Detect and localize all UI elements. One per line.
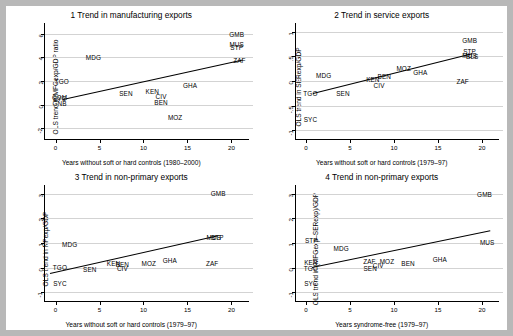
data-point-label: GHA — [163, 256, 177, 263]
x-tick-label: 15 — [434, 306, 441, 313]
x-tick-label: 5 — [348, 306, 351, 313]
data-point-label: GHA — [413, 68, 427, 75]
figure-panel-grid: 1 Trend in manufacturing exports OLS tre… — [6, 6, 507, 330]
x-tick-label: 0 — [54, 306, 57, 313]
gridline — [296, 81, 504, 82]
y-tick-label: 0 — [287, 81, 294, 84]
x-tick — [306, 139, 307, 143]
data-point-label: SEN — [83, 265, 96, 272]
data-point-label: STP — [230, 44, 243, 51]
x-tick-label: 5 — [98, 306, 101, 313]
x-tick-label: 5 — [348, 144, 351, 151]
x-tick — [231, 139, 232, 143]
x-axis-label: Years without soft or hard controls (198… — [6, 159, 257, 166]
x-tick — [187, 301, 188, 305]
gridline — [45, 34, 253, 35]
x-tick-label: 15 — [434, 144, 441, 151]
gridline — [296, 106, 504, 107]
data-point-label: SEN — [336, 90, 349, 97]
x-tick-label: 10 — [140, 306, 147, 313]
x-tick — [438, 139, 439, 143]
gridline — [45, 128, 253, 129]
gridline — [45, 105, 253, 106]
y-tick-label: 4 — [37, 57, 44, 60]
x-tick — [100, 139, 101, 143]
x-tick-label: 10 — [391, 144, 398, 151]
data-point-label: STP — [305, 237, 318, 244]
data-point-label: ZAF — [233, 57, 245, 64]
gridline — [296, 218, 504, 219]
data-point-label: TGO — [53, 264, 67, 271]
data-point-label: BLS — [466, 53, 478, 60]
y-tick-label: -.5 — [287, 106, 294, 113]
data-point-label: ZAF — [206, 259, 218, 266]
x-tick — [350, 301, 351, 305]
y-tick-label: 2 — [37, 81, 44, 84]
x-tick — [306, 301, 307, 305]
y-tick-label: 3 — [287, 194, 294, 197]
x-tick-label: 10 — [391, 306, 398, 313]
data-point-label: GMB — [477, 190, 492, 197]
data-point-label: GHA — [433, 255, 447, 262]
y-tick-label: -2 — [37, 128, 44, 134]
data-point-label: MDG — [62, 241, 77, 248]
plot-inner: -1012305101520GMBMUSSTPMDGGHAMOZZAFBENCI… — [296, 185, 500, 301]
data-point-label: GHA — [183, 82, 197, 89]
data-point-label: TGO — [55, 78, 69, 85]
x-tick-label: 20 — [478, 144, 485, 151]
data-point-label: SYC — [53, 279, 66, 286]
gridline — [296, 292, 504, 293]
gridline — [296, 194, 504, 195]
data-point-label: ZAF — [456, 78, 468, 85]
data-point-label: CIV — [117, 264, 128, 271]
data-point-label: TGO — [304, 264, 318, 271]
data-point-label: SYC — [304, 279, 317, 286]
data-point-label: BEN — [401, 259, 414, 266]
gridline — [296, 32, 504, 33]
x-tick-label: 20 — [228, 144, 235, 151]
y-tick-label: 0 — [37, 268, 44, 271]
y-tick-label: 1 — [287, 32, 294, 35]
y-tick-label: -1 — [287, 292, 294, 298]
plot-area: -1-.50.5105101520GMBSTPMUSBLSMDGMOZGHAZA… — [295, 23, 500, 140]
y-tick-label: -1 — [287, 130, 294, 136]
x-tick — [143, 301, 144, 305]
panel-title: 3 Trend in non-primary exports — [6, 172, 257, 182]
gridline — [45, 292, 253, 293]
y-tick-label: 0 — [287, 268, 294, 271]
x-tick-label: 15 — [184, 144, 191, 151]
y-tick-label: 3 — [37, 194, 44, 197]
chart-panel-4: 4 Trend in non-primary exports OLS trend… — [257, 168, 508, 330]
panel-title: 4 Trend in non-primary exports — [257, 172, 508, 182]
panel-title: 1 Trend in manufacturing exports — [6, 10, 257, 20]
gridline — [296, 130, 504, 131]
y-tick-label: 2 — [287, 218, 294, 221]
plot-area: -1012305101520GMBMUSSTPMDGGHAMOZZAFBENCI… — [295, 185, 500, 302]
plot-inner: -1-.50.5105101520GMBSTPMUSBLSMDGMOZGHAZA… — [296, 23, 500, 139]
plot-inner: -1012305101520GMBMUSSTPMDGGHAMOZZAFKENBE… — [45, 185, 249, 301]
gridline — [45, 57, 253, 58]
data-point-label: SEN — [119, 89, 132, 96]
data-point-label: MUS — [480, 238, 495, 245]
y-tick-label: 1 — [37, 243, 44, 246]
data-point-label: MDG — [86, 53, 101, 60]
data-point-label: GNB — [52, 100, 66, 107]
data-point-label: TGO — [303, 90, 317, 97]
data-point-label: MDG — [316, 71, 331, 78]
x-axis-label: Years syndrome-free (1979–97) — [257, 321, 508, 328]
x-tick-label: 15 — [184, 306, 191, 313]
x-axis-label: Years without soft or hard controls (197… — [257, 159, 508, 166]
x-tick-label: 20 — [228, 306, 235, 313]
plot-inner: -2024605101520GMBMUSSTPZAFMDGTGOGHASENKE… — [45, 23, 249, 139]
x-tick-label: 0 — [304, 144, 307, 151]
data-point-label: GMB — [211, 189, 226, 196]
data-point-label: GMB — [229, 30, 244, 37]
x-tick-label: 0 — [304, 306, 307, 313]
y-tick-label: -1 — [37, 292, 44, 298]
gridline — [296, 268, 504, 269]
panel-title: 2 Trend in service exports — [257, 10, 508, 20]
y-tick-label: 1 — [287, 243, 294, 246]
x-axis-label: Years without soft or hard controls (197… — [6, 321, 257, 328]
regression-fit-line — [313, 53, 472, 94]
data-point-label: GMB — [462, 37, 477, 44]
